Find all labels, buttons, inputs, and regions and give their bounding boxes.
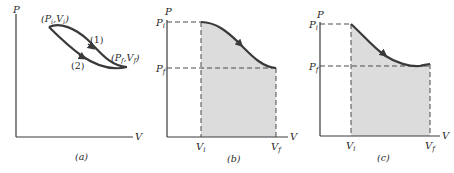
pf-label: Pf [308, 61, 320, 74]
v-axis-label: V [135, 131, 144, 142]
panel-b: P V Pi Pf Vi Vf (b) [155, 6, 299, 164]
vf-label: Vf [425, 140, 436, 153]
pi-label: Pi [308, 19, 318, 32]
panel-b-caption: (b) [227, 153, 241, 164]
vi-label: Vi [196, 141, 205, 154]
panel-a: P V (Pi,Vi) (Pf,Vf) (1) (2) (a) [12, 4, 144, 162]
p-axis-label: P [316, 9, 324, 20]
vi-label: Vi [346, 140, 355, 153]
v-axis-label: V [290, 131, 299, 142]
work-area-shading [201, 22, 276, 137]
panel-c: P V Pi Pf Vi Vf (c) [308, 9, 451, 163]
v-axis-label: V [442, 130, 451, 141]
initial-state-label: (Pi,Vi) [41, 13, 69, 26]
work-area-shading [351, 24, 430, 136]
panel-c-caption: (c) [377, 152, 390, 163]
pf-label: Pf [155, 63, 167, 76]
path-1-label: (1) [90, 34, 103, 45]
panel-a-caption: (a) [75, 151, 88, 162]
vf-label: Vf [271, 141, 282, 154]
path-2-label: (2) [71, 60, 84, 71]
pv-diagram-figure: P V (Pi,Vi) (Pf,Vf) (1) (2) (a) P V Pi P… [0, 0, 454, 173]
pi-label: Pi [155, 17, 165, 30]
p-axis-label: P [12, 4, 20, 15]
p-axis-label: P [164, 6, 172, 17]
